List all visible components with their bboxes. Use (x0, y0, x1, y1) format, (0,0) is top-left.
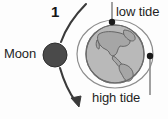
orbit-arc-lower-path (60, 68, 76, 102)
high-tide-label: high tide (92, 91, 140, 105)
tide-diagram: 1 Moon low tide high tide (0, 0, 168, 119)
orbit-arrowhead-icon (71, 96, 81, 107)
moon-label: Moon (4, 47, 36, 61)
low-tide-label: low tide (116, 5, 159, 19)
high-tide-marker-dot (147, 53, 153, 59)
moon-sphere (43, 43, 67, 67)
step-number-label: 1 (51, 5, 59, 19)
low-tide-marker-dot (109, 19, 115, 25)
